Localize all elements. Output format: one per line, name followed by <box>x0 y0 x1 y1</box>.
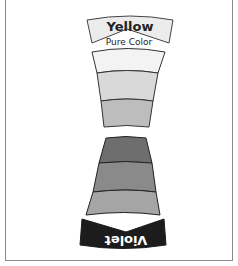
tint-segment-1 <box>92 49 165 74</box>
tint-segment-3 <box>101 99 153 127</box>
upper-wedge <box>92 49 165 128</box>
tint-segment-2 <box>97 71 158 102</box>
violet-label: Violet <box>105 233 148 248</box>
pure-color-label: Pure Color <box>106 37 153 47</box>
lower-wedge <box>86 137 160 216</box>
shade-segment-3 <box>86 190 160 215</box>
color-value-diagram: Yellow Pure Color Violet <box>0 0 238 266</box>
shade-segment-1 <box>99 137 152 164</box>
yellow-label: Yellow <box>106 19 154 34</box>
shade-segment-2 <box>93 162 156 193</box>
